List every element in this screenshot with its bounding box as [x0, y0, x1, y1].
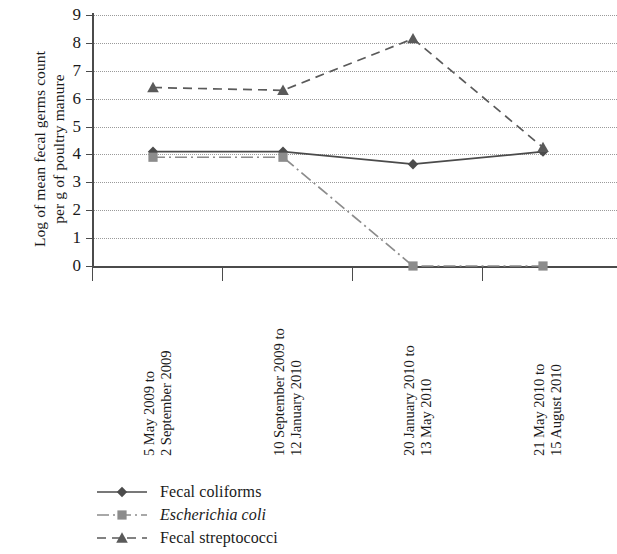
- y-axis-tick-label: 0: [73, 256, 82, 276]
- legend-key-glyph: [96, 482, 148, 502]
- y-axis-tick-label: 9: [73, 5, 82, 25]
- x-axis-category-label: 5 May 2009 to2 September 2009: [141, 286, 165, 456]
- x-axis-category-line-1: 5 May 2009 to: [141, 371, 158, 456]
- legend-item: Fecal streptococci: [96, 526, 278, 549]
- legend-label: Fecal streptococci: [160, 529, 278, 547]
- x-axis-category-line-1: 20 January 2010 to: [401, 345, 418, 456]
- x-axis-category-line-2: 13 May 2010: [418, 379, 435, 456]
- x-axis-tick: [352, 267, 353, 281]
- x-axis-category-label: 20 January 2010 to13 May 2010: [401, 286, 425, 456]
- y-axis-title-line-1: Log of mean fecal germs count: [30, 4, 49, 294]
- x-axis-category-line-2: 15 August 2010: [548, 364, 565, 456]
- square-marker: [278, 153, 287, 162]
- y-axis-tick-label: 8: [73, 33, 82, 53]
- series-line: [153, 39, 543, 148]
- legend-item: Escherichia coli: [96, 503, 278, 526]
- triangle-marker: [407, 33, 419, 43]
- plot-area: 0123456789: [92, 15, 617, 266]
- y-axis-tick-label: 6: [73, 89, 82, 109]
- diamond-marker: [408, 159, 418, 169]
- series-line: [153, 152, 543, 165]
- legend-item: Fecal coliforms: [96, 480, 278, 503]
- legend: Fecal coliformsEscherichia coliFecal str…: [96, 480, 278, 549]
- legend-key-glyph: [96, 528, 148, 548]
- y-axis-tick-label: 1: [73, 228, 82, 248]
- diamond-marker: [117, 486, 127, 496]
- triangle-marker: [537, 142, 549, 152]
- legend-key: [96, 482, 148, 502]
- y-axis-tick-label: 2: [73, 200, 82, 220]
- square-marker: [148, 153, 157, 162]
- y-axis-tick-label: 5: [73, 117, 82, 137]
- x-axis-category-line-2: 2 September 2009: [158, 350, 175, 456]
- legend-key: [96, 505, 148, 525]
- x-axis-category-line-1: 21 May 2010 to: [531, 364, 548, 456]
- x-axis-category-label: 21 May 2010 to15 August 2010: [531, 286, 555, 456]
- y-axis-tick-label: 4: [73, 144, 82, 164]
- legend-key-glyph: [96, 505, 148, 525]
- square-marker: [117, 510, 126, 519]
- legend-label: Escherichia coli: [160, 506, 266, 524]
- y-axis-title-line-2: per g of poultry manure: [49, 4, 68, 294]
- x-axis-tick: [92, 267, 93, 281]
- x-axis-category-label: 10 September 2009 to12 January 2010: [271, 286, 295, 456]
- x-axis-category-line-1: 10 September 2009 to: [271, 328, 288, 456]
- x-axis-tick: [222, 267, 223, 281]
- legend-label: Fecal coliforms: [160, 483, 261, 501]
- square-marker: [538, 261, 547, 270]
- x-axis-tick: [482, 267, 483, 281]
- series-line: [153, 157, 543, 266]
- series-layer: [92, 15, 617, 266]
- x-axis-category-line-2: 12 January 2010: [288, 360, 305, 456]
- legend-key: [96, 528, 148, 548]
- y-axis-tick-label: 3: [73, 172, 82, 192]
- square-marker: [408, 261, 417, 270]
- y-axis-tick-label: 7: [73, 61, 82, 81]
- y-axis-title: Log of mean fecal germs count per g of p…: [30, 4, 68, 294]
- chart-figure: Log of mean fecal germs count per g of p…: [0, 0, 617, 554]
